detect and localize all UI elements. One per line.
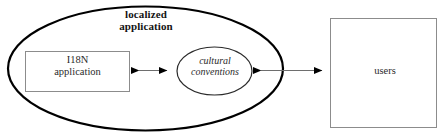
outer-boundary-label-line2: application [119,20,173,32]
cultural-conventions-label: culturalconventions [174,55,256,77]
users-label: users [333,65,437,77]
i18n-application-label-line1: I18N [67,54,89,65]
i18n-application-label-line2: application [54,66,101,77]
users-label-line1: users [374,65,396,76]
localization-diagram: localizedapplication I18Napplication cul… [0,0,445,139]
cultural-conventions-label-line2: conventions [191,66,239,77]
i18n-application-label: I18Napplication [25,54,130,78]
cultural-conventions-label-line1: cultural [199,55,231,66]
outer-boundary-label: localizedapplication [86,8,206,33]
outer-boundary-label-line1: localized [125,8,167,20]
